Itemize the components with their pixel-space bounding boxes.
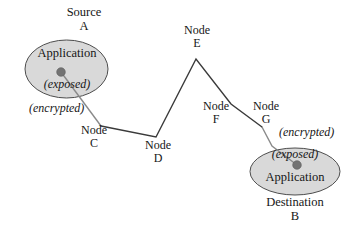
node-label-e: Node E — [184, 24, 210, 50]
node-g-line1: Node — [253, 100, 279, 113]
network-path — [101, 59, 262, 137]
destination-caption-line1: Destination — [266, 196, 324, 210]
node-e-line2: E — [184, 37, 210, 50]
source-encrypted-label: (encrypted) — [29, 102, 84, 115]
source-application-label: Application — [37, 47, 96, 61]
node-f-line1: Node — [203, 100, 229, 113]
node-d-line2: D — [145, 152, 171, 165]
source-caption: Source A — [67, 6, 102, 33]
destination-application-dot — [293, 161, 302, 170]
destination-exposed-label: (exposed) — [272, 148, 319, 161]
source-caption-line2: A — [67, 20, 102, 34]
node-d-line1: Node — [145, 139, 171, 152]
node-c-line1: Node — [81, 124, 107, 137]
source-application-dot — [57, 68, 66, 77]
node-g-line2: G — [253, 113, 279, 126]
node-f-line2: F — [203, 113, 229, 126]
source-exposed-label: (exposed) — [44, 78, 91, 91]
node-label-c: Node C — [81, 124, 107, 150]
destination-caption-line2: B — [266, 210, 324, 224]
node-e-line1: Node — [184, 24, 210, 37]
node-label-g: Node G — [253, 100, 279, 126]
diagram-canvas: Source A Application (exposed) (encrypte… — [0, 0, 359, 235]
destination-encrypted-label: (encrypted) — [279, 126, 334, 139]
destination-caption: Destination B — [266, 196, 324, 223]
source-caption-line1: Source — [67, 6, 102, 20]
node-c-line2: C — [81, 137, 107, 150]
node-label-d: Node D — [145, 139, 171, 165]
destination-application-label: Application — [265, 171, 324, 185]
node-label-f: Node F — [203, 100, 229, 126]
